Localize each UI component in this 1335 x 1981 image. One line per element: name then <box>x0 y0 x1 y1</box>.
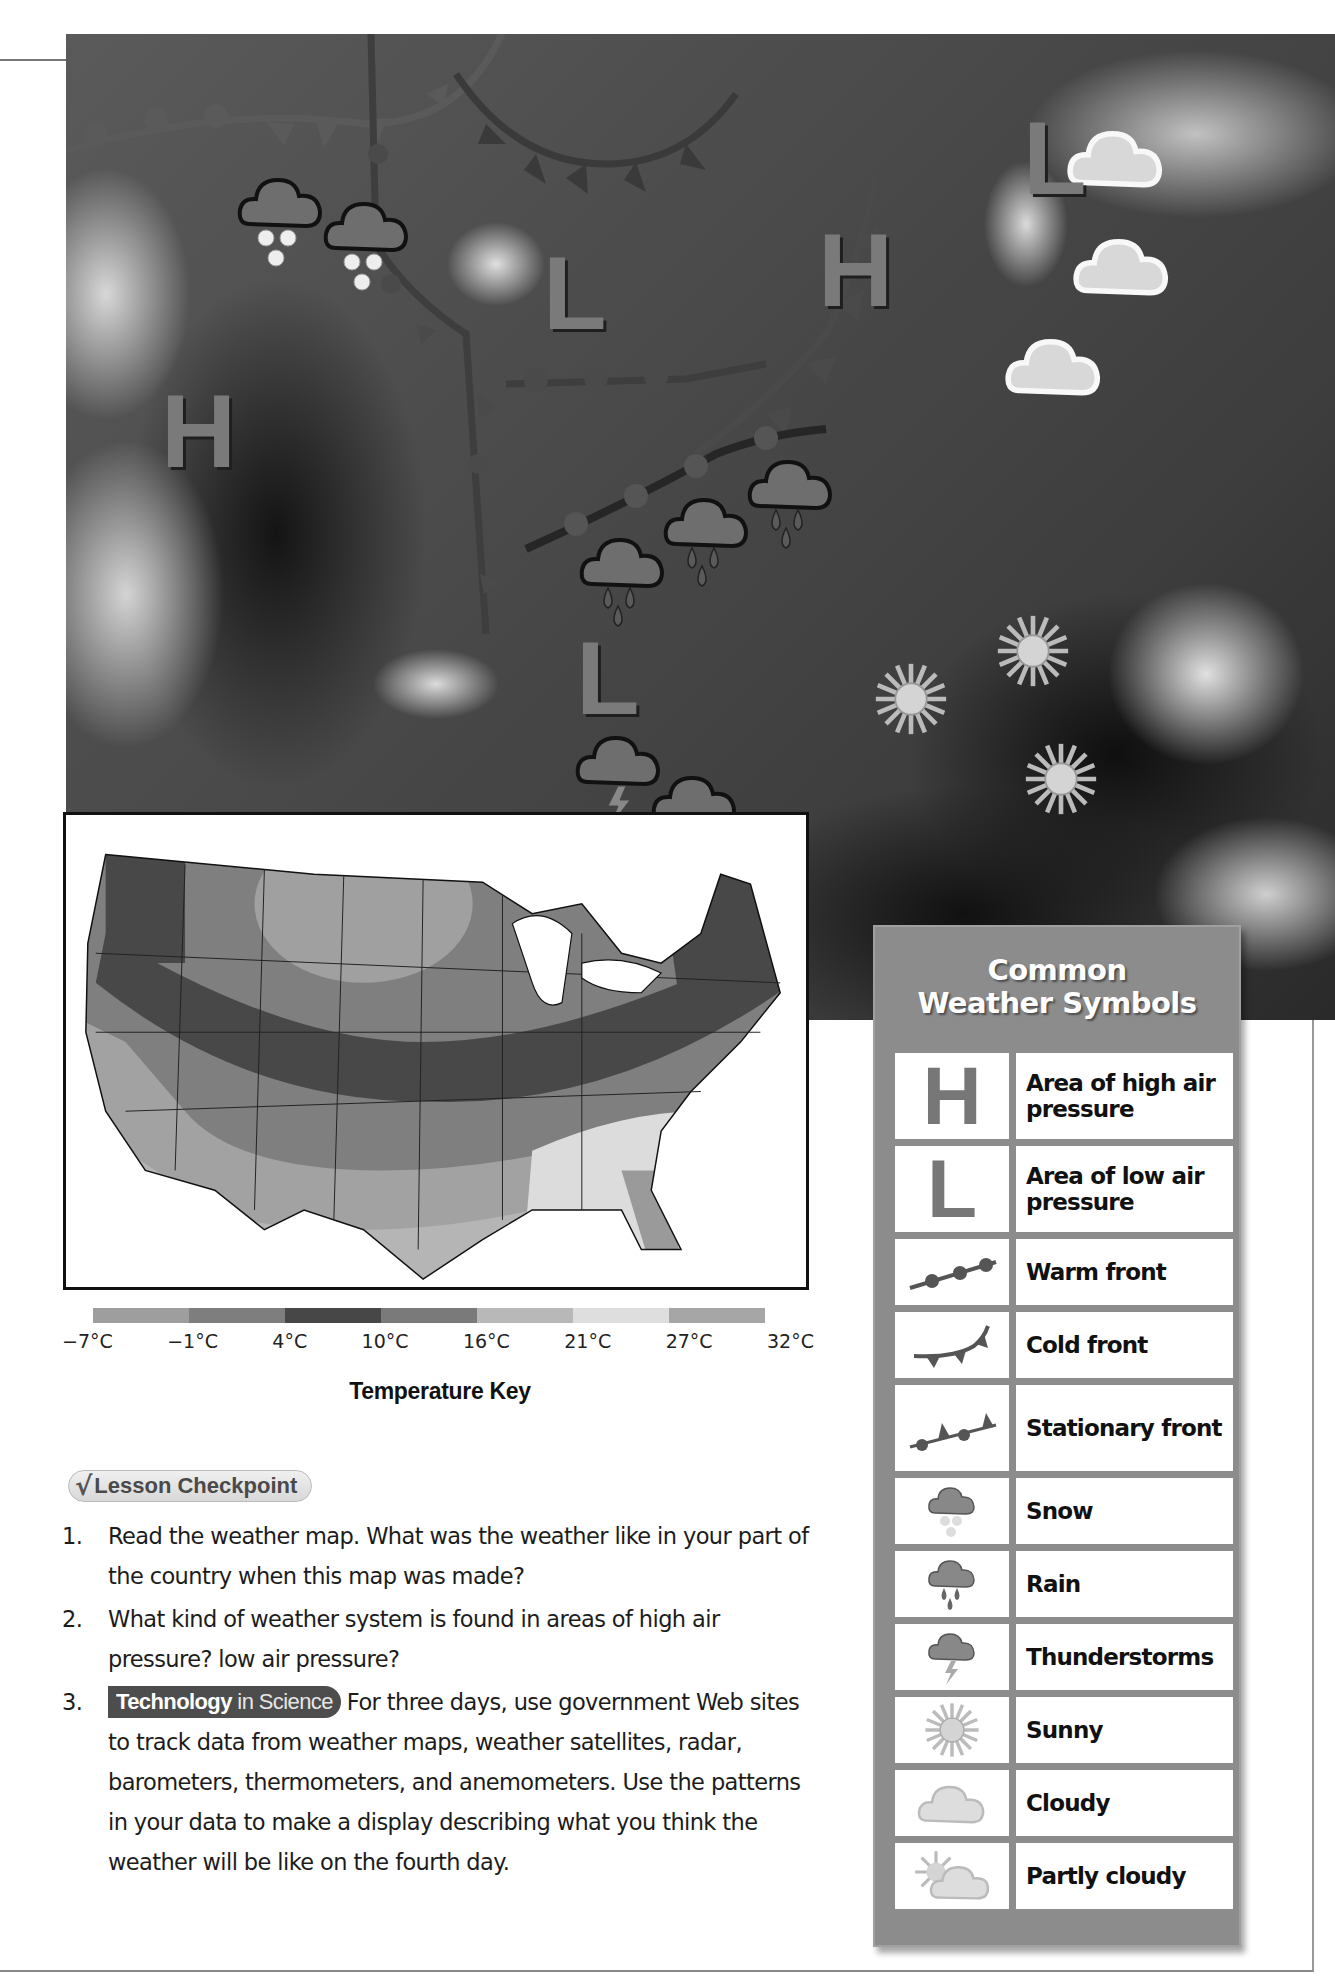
cloudy-icon <box>1076 242 1165 293</box>
badge-rest: in Science <box>232 1689 333 1714</box>
cold-front-icon <box>904 1320 1000 1370</box>
legend-row-stationary-front: Stationary front <box>895 1385 1233 1471</box>
temp-label: −7°C <box>62 1330 113 1352</box>
partly-cloudy-icon <box>912 1848 992 1904</box>
question-number: 1. <box>62 1516 108 1596</box>
temp-label: 32°C <box>767 1330 814 1352</box>
question-number: 2. <box>62 1599 108 1679</box>
temp-label: 16°C <box>463 1330 510 1352</box>
temp-label: 4°C <box>272 1330 307 1352</box>
question-item: 1. Read the weather map. What was the we… <box>62 1516 822 1596</box>
snow-icon <box>927 1481 977 1541</box>
low-pressure-marker: L <box>543 241 607 345</box>
legend-rows: H Area of high air pressure L Area of lo… <box>895 1053 1233 1916</box>
temperature-key-title: Temperature Key <box>0 1378 880 1405</box>
cloudy-icon <box>1008 342 1097 393</box>
legend-title-line1: Common <box>875 954 1239 987</box>
temperature-key-labels: −7°C −1°C 4°C 10°C 16°C 21°C 27°C 32°C <box>62 1330 814 1352</box>
legend-row-warm-front: Warm front <box>895 1239 1233 1305</box>
legend-label: Sunny <box>1016 1697 1233 1763</box>
temp-swatch <box>93 1308 189 1323</box>
lesson-checkpoint-badge: √ Lesson Checkpoint <box>68 1470 312 1502</box>
temp-label: 27°C <box>666 1330 713 1352</box>
low-pressure-marker: L <box>1023 106 1087 210</box>
legend-label: Cloudy <box>1016 1770 1233 1836</box>
sunny-icon <box>876 664 946 734</box>
lesson-checkpoint-label: Lesson Checkpoint <box>94 1473 297 1499</box>
question-body: Technology in ScienceFor three days, use… <box>108 1682 822 1882</box>
legend-label: Stationary front <box>1016 1385 1233 1471</box>
page-rule-right <box>1312 1020 1314 1972</box>
temperature-map <box>63 812 809 1290</box>
stationary-front-icon <box>904 1403 1000 1453</box>
rain-icon <box>582 540 662 626</box>
question-number: 3. <box>62 1682 108 1882</box>
question-item: 3. Technology in ScienceFor three days, … <box>62 1682 822 1882</box>
low-pressure-icon: L <box>927 1148 977 1230</box>
low-pressure-marker: L <box>576 626 640 730</box>
high-pressure-marker: H <box>161 379 236 483</box>
legend-row-thunderstorms: Thunderstorms <box>895 1624 1233 1690</box>
temp-label: 10°C <box>362 1330 409 1352</box>
legend-row-snow: Snow <box>895 1478 1233 1544</box>
legend-label: Warm front <box>1016 1239 1233 1305</box>
legend-label: Rain <box>1016 1551 1233 1617</box>
question-item: 2. What kind of weather system is found … <box>62 1599 822 1679</box>
legend-row-low: L Area of low air pressure <box>895 1146 1233 1232</box>
thunderstorm-icon <box>927 1627 977 1687</box>
legend-label: Partly cloudy <box>1016 1843 1233 1909</box>
rain-icon <box>666 500 746 586</box>
warm-front-icon <box>904 1252 1000 1292</box>
cloud-icon <box>916 1779 988 1827</box>
temperature-bands <box>66 815 806 1287</box>
weather-symbols-legend: Common Weather Symbols H Area of high ai… <box>873 925 1241 1947</box>
temp-swatch <box>189 1308 285 1323</box>
legend-label: Area of low air pressure <box>1016 1146 1233 1232</box>
legend-row-rain: Rain <box>895 1551 1233 1617</box>
legend-row-partly-cloudy: Partly cloudy <box>895 1843 1233 1909</box>
checkpoint-questions: 1. Read the weather map. What was the we… <box>62 1516 822 1885</box>
high-pressure-icon: H <box>922 1055 981 1137</box>
badge-bold: Technology <box>116 1689 232 1714</box>
legend-title-line2: Weather Symbols <box>875 987 1239 1020</box>
legend-row-sunny: Sunny <box>895 1697 1233 1763</box>
legend-label: Cold front <box>1016 1312 1233 1378</box>
rain-icon <box>750 462 830 548</box>
technology-in-science-badge: Technology in Science <box>108 1686 341 1718</box>
checkmark-icon: √ <box>75 1473 92 1499</box>
temp-label: 21°C <box>564 1330 611 1352</box>
question-text: What kind of weather system is found in … <box>108 1599 822 1679</box>
temp-swatch <box>477 1308 573 1323</box>
temp-label: −1°C <box>167 1330 218 1352</box>
sunny-icon <box>1026 744 1096 814</box>
sun-icon <box>924 1702 980 1758</box>
sunny-icon <box>998 616 1068 686</box>
legend-label: Snow <box>1016 1478 1233 1544</box>
temp-swatch <box>381 1308 477 1323</box>
legend-label: Thunderstorms <box>1016 1624 1233 1690</box>
legend-label: Area of high air pressure <box>1016 1053 1233 1139</box>
rain-icon <box>927 1554 977 1614</box>
legend-row-cloudy: Cloudy <box>895 1770 1233 1836</box>
temp-swatch <box>285 1308 381 1323</box>
temperature-key-bar <box>93 1308 765 1323</box>
page-rule-top <box>0 59 66 61</box>
legend-row-cold-front: Cold front <box>895 1312 1233 1378</box>
temp-swatch <box>573 1308 669 1323</box>
high-pressure-marker: H <box>818 218 893 322</box>
legend-title: Common Weather Symbols <box>875 927 1239 1055</box>
snow-icon <box>240 180 320 266</box>
question-text: Read the weather map. What was the weath… <box>108 1516 822 1596</box>
page-rule-bottom <box>0 1970 1313 1972</box>
legend-row-high: H Area of high air pressure <box>895 1053 1233 1139</box>
temp-swatch <box>669 1308 765 1323</box>
